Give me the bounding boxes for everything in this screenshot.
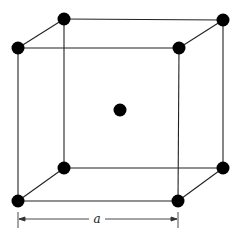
atom-front-bottom-left: [12, 195, 25, 208]
edge-top-left-depth: [18, 19, 64, 48]
bcc-unit-cell-diagram: a: [0, 0, 241, 237]
atom-back-top-left: [58, 13, 71, 26]
edge-top-right-depth: [179, 20, 223, 48]
atom-back-bottom-left: [58, 162, 71, 175]
atom-front-top-left: [12, 42, 25, 55]
arrowhead-right-icon: [171, 217, 177, 221]
edge-back-top: [64, 19, 223, 20]
arrowhead-left-icon: [19, 217, 25, 221]
edge-bottom-left-depth: [18, 168, 64, 201]
atom-front-bottom-right: [172, 195, 185, 208]
lattice-constant-label: a: [93, 212, 100, 226]
edge-front-right: [178, 48, 179, 201]
edge-bottom-right-depth: [178, 168, 223, 201]
atom-back-bottom-right: [217, 162, 230, 175]
atom-front-top-right: [173, 42, 186, 55]
atom-body-center: [114, 104, 127, 117]
atoms: [12, 13, 230, 208]
atom-back-top-right: [217, 14, 230, 27]
